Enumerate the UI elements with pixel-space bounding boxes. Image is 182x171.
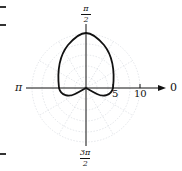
tick-label-10: 10	[134, 89, 147, 99]
half-pi-numerator: π	[83, 5, 88, 13]
label-zero: 0	[170, 82, 177, 93]
three-half-pi-numerator: 3π	[80, 149, 90, 157]
three-half-pi-denominator: 2	[83, 160, 88, 168]
arrow-head-icon	[158, 85, 166, 91]
axes	[26, 24, 160, 146]
label-half-pi: π 2	[81, 5, 91, 24]
label-pi: π	[15, 82, 22, 93]
polar-plot	[0, 0, 182, 171]
half-pi-denominator: 2	[83, 16, 88, 24]
tick-label-5: 5	[112, 89, 118, 99]
label-three-half-pi: 3π 2	[80, 149, 90, 168]
